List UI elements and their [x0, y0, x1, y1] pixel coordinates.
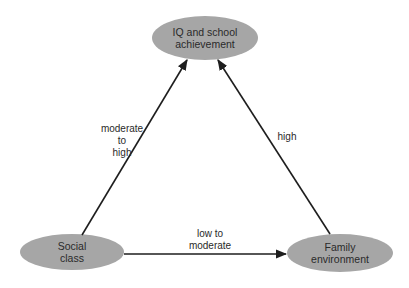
node-label-line: Family [290, 241, 390, 253]
edge-label-line: moderate [96, 123, 148, 135]
edge-family-to-iq [218, 60, 330, 234]
node-label-line: achievement [152, 38, 258, 50]
node-label-line: environment [290, 253, 390, 265]
edge-label-family-to-iq: high [272, 131, 302, 143]
edge-label-line: low to [180, 228, 240, 240]
node-label-line: Social [22, 240, 122, 252]
edge-label-line: moderate [180, 240, 240, 252]
node-label-line: class [22, 252, 122, 264]
node-label-family-environment: Family environment [290, 241, 390, 265]
node-label-line: IQ and school [152, 26, 258, 38]
relationship-diagram: IQ and school achievement Social class F… [0, 0, 409, 288]
edge-label-line: high [96, 147, 148, 159]
node-label-social-class: Social class [22, 240, 122, 264]
node-label-iq-achievement: IQ and school achievement [152, 26, 258, 50]
edge-label-social-to-family: low to moderate [180, 228, 240, 252]
edge-label-line: high [272, 131, 302, 143]
edge-label-line: to [96, 135, 148, 147]
edge-label-social-to-iq: moderate to high [96, 123, 148, 159]
